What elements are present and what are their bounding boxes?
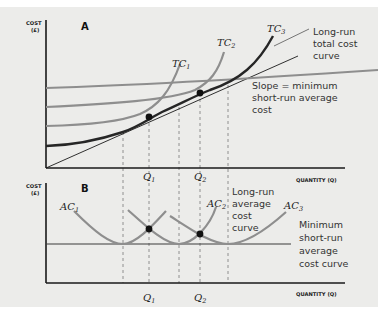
tc2-curve [46, 52, 224, 107]
ac2-curve [128, 207, 216, 244]
panel-a-y-axis-label: COST [26, 20, 42, 26]
ac3-label: AC3 [283, 200, 303, 213]
ac3-curve [170, 212, 286, 244]
panel-a-label: A [81, 21, 89, 32]
panel-a-q1-tick: Q1 [143, 171, 155, 184]
intersection-point-q1 [146, 226, 153, 233]
panel-b-label: B [81, 183, 89, 194]
cost-curves-diagram: COST (£) A TC1 TC2 TC3 Long-run total co… [0, 0, 378, 317]
panel-b-q1-tick: Q1 [143, 292, 155, 305]
long-run-total-cost-curve [46, 36, 273, 146]
panel-b-x-axis-label: QUANTITY (Q) [296, 291, 337, 297]
tc3-label: TC3 [267, 23, 285, 36]
ac1-label: AC1 [59, 201, 79, 214]
slope-note: Slope = minimum short-run average cost [252, 80, 341, 115]
panel-a-x-axis-label: QUANTITY (Q) [296, 177, 337, 183]
long-run-total-cost-note: Long-run total cost curve [313, 26, 360, 61]
tangency-point-q1 [146, 114, 153, 121]
panel-a-q2-tick: Q2 [194, 171, 206, 184]
ac1-curve [74, 211, 166, 244]
tc1-curve [46, 64, 180, 126]
tc2-label: TC2 [217, 37, 235, 50]
panel-b: COST (£) B AC1 AC2 AC3 Long-run average … [26, 183, 349, 305]
tangency-point-q2 [197, 90, 204, 97]
panel-b-y-axis-label: COST [26, 183, 42, 189]
panel-a-y-axis-unit: (£) [31, 27, 39, 33]
intersection-point-q2 [197, 231, 204, 238]
minimum-short-run-note: Minimum short-run average cost curve [299, 219, 349, 269]
tc1-label: TC1 [172, 58, 190, 71]
panel-b-q2-tick: Q2 [194, 292, 206, 305]
panel-b-y-axis-unit: (£) [31, 190, 39, 196]
